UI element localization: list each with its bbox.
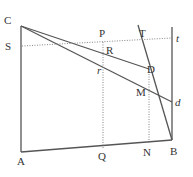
label-C: C xyxy=(4,14,11,26)
line-TB xyxy=(138,25,172,140)
label-N: N xyxy=(143,146,151,158)
label-Q: Q xyxy=(98,150,106,162)
label-B: B xyxy=(170,145,177,157)
label-r: r xyxy=(97,64,102,76)
label-S: S xyxy=(5,40,11,52)
label-d: d xyxy=(175,96,181,108)
label-t: t xyxy=(176,32,180,44)
line-CD xyxy=(21,26,149,69)
dotted-line-St xyxy=(22,38,172,46)
label-D: D xyxy=(147,63,155,75)
label-R: R xyxy=(106,44,114,56)
label-M: M xyxy=(136,86,146,98)
label-P: P xyxy=(99,27,105,39)
geometry-diagram: C S A P R r T t D M d Q N B xyxy=(0,0,193,177)
label-T: T xyxy=(139,27,146,39)
label-A: A xyxy=(17,155,25,167)
